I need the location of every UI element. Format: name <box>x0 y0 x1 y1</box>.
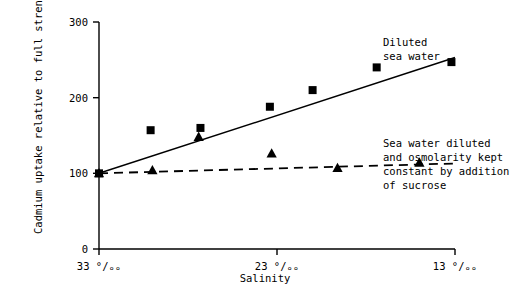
data-point <box>196 124 204 132</box>
plot-area: 0 100 200 300 33 °/ₒₒ 23 °/ₒₒ 13 °/ₒₒ Di… <box>0 0 530 296</box>
data-point <box>266 103 274 111</box>
x-tick-label-33: 33 °/ₒₒ <box>77 260 121 272</box>
y-tick-label-100: 100 <box>69 167 88 179</box>
annotation-diluted-line-2: sea water <box>383 50 440 62</box>
x-tick-label-23: 23 °/ₒₒ <box>255 260 299 272</box>
x-tick-group: 33 °/ₒₒ 23 °/ₒₒ 13 °/ₒₒ <box>77 249 477 272</box>
data-point <box>309 86 317 94</box>
data-point <box>194 132 204 141</box>
annotation-sucrose-line-4: of sucrose <box>383 179 446 191</box>
y-tick-label-300: 300 <box>69 16 88 28</box>
data-point <box>147 165 157 174</box>
annotation-sucrose-line-3: constant by addition <box>383 165 509 177</box>
data-point <box>267 148 277 157</box>
data-point <box>447 58 455 66</box>
annotation-diluted-sea-water: Diluted sea water <box>383 36 440 62</box>
data-point <box>373 63 381 71</box>
annotation-sucrose-line-1: Sea water diluted <box>383 137 490 149</box>
y-tick-group: 0 100 200 300 <box>69 16 99 255</box>
x-tick-label-13: 13 °/ₒₒ <box>433 260 477 272</box>
y-tick-label-200: 200 <box>69 92 88 104</box>
annotation-sucrose-line-2: and osmolarity kept <box>383 151 503 163</box>
chart-container: Cadmium uptake relative to full strength… <box>0 0 530 296</box>
y-tick-label-0: 0 <box>82 243 88 255</box>
data-point <box>147 126 155 134</box>
annotation-diluted-line-1: Diluted <box>383 36 427 48</box>
